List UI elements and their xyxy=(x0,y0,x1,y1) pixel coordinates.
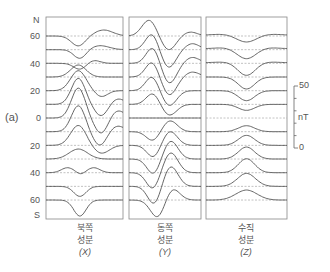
variation-curve xyxy=(129,190,201,217)
caption-y-line2: 성분 xyxy=(135,234,195,246)
caption-x-line1: 북쪽 xyxy=(55,222,115,234)
variation-curve xyxy=(46,186,123,196)
variation-curve xyxy=(206,159,287,173)
variation-curve xyxy=(129,132,201,157)
variation-curve xyxy=(129,78,201,106)
variation-curve xyxy=(206,77,287,89)
variation-curve xyxy=(46,78,123,115)
variation-curve xyxy=(206,91,287,101)
panel-z xyxy=(206,17,287,219)
variation-curve xyxy=(46,106,123,145)
caption-y-symbol: (Y) xyxy=(159,247,171,257)
lat-label-south: S xyxy=(34,211,40,220)
variation-curve xyxy=(206,62,287,75)
variation-curve xyxy=(206,135,287,145)
variation-curve xyxy=(46,30,123,46)
panel-label: (a) xyxy=(5,112,18,123)
lat-label-60n: 60 xyxy=(30,32,40,41)
lat-label-40s: 40 xyxy=(30,169,40,178)
variation-curve xyxy=(129,63,201,95)
lat-label-equator: 0 xyxy=(36,114,41,123)
variation-curve xyxy=(46,149,123,159)
variation-curve xyxy=(129,20,201,49)
caption-z: 수직 성분 (Z) xyxy=(216,222,276,258)
variation-curve xyxy=(206,173,287,186)
variation-curve xyxy=(46,126,123,154)
caption-x-line2: 성분 xyxy=(55,234,115,246)
scale-unit-label: nT xyxy=(298,113,309,122)
variation-curve xyxy=(129,35,201,67)
caption-y-line1: 동쪽 xyxy=(135,222,195,234)
variation-curve xyxy=(129,141,201,173)
panel-y xyxy=(129,17,201,219)
variation-curve xyxy=(206,34,287,42)
variation-curve xyxy=(206,190,287,200)
variation-curve xyxy=(46,71,123,97)
caption-x: 북쪽 성분 (X) xyxy=(55,222,115,258)
caption-x-symbol: (X) xyxy=(79,247,91,257)
variation-curve xyxy=(206,147,287,159)
lat-label-60s: 60 xyxy=(30,196,40,205)
variation-curve xyxy=(206,126,287,132)
variation-curve xyxy=(129,49,201,83)
scale-bottom-label: 0 xyxy=(299,143,304,152)
lat-label-20s: 20 xyxy=(30,142,40,151)
variation-curve xyxy=(46,88,123,133)
variation-curve xyxy=(46,200,123,216)
scale-top-label: 50 xyxy=(299,81,309,90)
variation-curve xyxy=(206,104,287,110)
caption-y: 동쪽 성분 (Y) xyxy=(135,222,195,258)
caption-z-symbol: (Z) xyxy=(240,247,252,257)
caption-z-line1: 수직 xyxy=(216,222,276,234)
variation-curve xyxy=(46,46,123,59)
lat-label-20n: 20 xyxy=(30,87,40,96)
caption-z-line2: 성분 xyxy=(216,234,276,246)
lat-label-north: N xyxy=(33,16,40,25)
lat-label-40n: 40 xyxy=(30,60,40,69)
panel-x xyxy=(46,17,123,219)
